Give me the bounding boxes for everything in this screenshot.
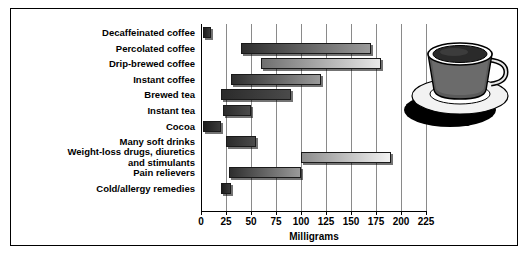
category-label: Instant tea — [147, 105, 195, 116]
category-label: Drip-brewed coffee — [109, 58, 195, 69]
category-label: Pain relievers — [133, 167, 195, 178]
category-label: Decaffeinated coffee — [102, 27, 195, 38]
plot-area — [201, 24, 426, 211]
x-tick-label: 225 — [406, 216, 446, 228]
category-label: Cold/allergy remedies — [96, 183, 195, 194]
x-tick — [301, 211, 302, 215]
bar — [221, 183, 231, 194]
x-tick — [376, 211, 377, 215]
coffee-cup-image — [398, 26, 520, 134]
x-tick — [201, 211, 202, 215]
category-label: Cocoa — [166, 121, 195, 132]
bar — [229, 167, 301, 178]
bar — [223, 105, 251, 116]
bar — [301, 152, 391, 163]
gridline — [376, 24, 377, 211]
x-tick — [226, 211, 227, 215]
x-tick — [276, 211, 277, 215]
category-label: Weight-loss drugs, diuretics and stimula… — [67, 146, 195, 168]
bar — [226, 136, 256, 147]
bar — [203, 27, 211, 38]
category-label: Instant coffee — [133, 74, 195, 85]
x-tick — [351, 211, 352, 215]
x-tick — [401, 211, 402, 215]
category-label: Percolated coffee — [116, 43, 195, 54]
bar — [241, 43, 371, 54]
x-axis-line — [201, 211, 427, 212]
x-tick — [251, 211, 252, 215]
bar — [203, 121, 221, 132]
y-axis-line — [201, 24, 202, 211]
bar — [221, 89, 291, 100]
x-tick — [426, 211, 427, 215]
x-axis-title: Milligrams — [201, 231, 427, 242]
bar — [261, 58, 381, 69]
figure-canvas: Decaffeinated coffee Percolated coffee D… — [0, 0, 529, 264]
bar — [231, 74, 321, 85]
x-tick — [326, 211, 327, 215]
category-label: Brewed tea — [144, 89, 195, 100]
